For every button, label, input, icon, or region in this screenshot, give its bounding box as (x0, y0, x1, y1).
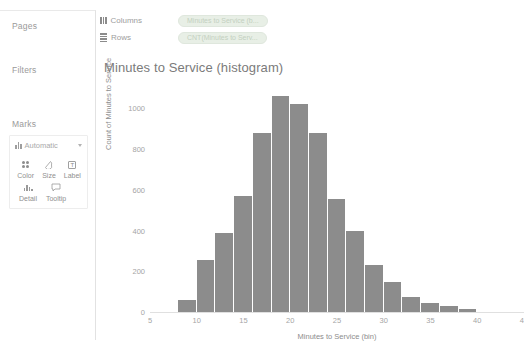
x-axis-line (150, 312, 524, 313)
x-tick-label: 5 (148, 316, 152, 325)
shelf-area: Columns Minutes to Service (b... Rows CN… (100, 12, 520, 46)
y-axis-ticks: 02004006008001000 (114, 88, 148, 312)
marks-label-button[interactable]: T Label (61, 156, 84, 179)
chart-canvas: Count of Minutes to Service 020040060080… (100, 88, 524, 350)
x-axis-ticks: 51015202530354045 (150, 314, 524, 328)
size-icon (44, 159, 53, 170)
sidebar: Pages Filters Marks Automatic Col (0, 10, 96, 340)
rows-icon (100, 33, 107, 42)
plot-area (150, 88, 524, 312)
histogram-bar[interactable] (197, 260, 216, 312)
histogram-bar[interactable] (309, 133, 328, 312)
columns-pill[interactable]: Minutes to Service (b... (178, 15, 268, 27)
columns-label: Columns (111, 16, 143, 25)
marks-label: Marks (0, 119, 95, 129)
x-tick-label: 35 (426, 316, 434, 325)
histogram-bar[interactable] (402, 297, 421, 312)
histogram-bar[interactable] (234, 196, 253, 312)
histogram-bar[interactable] (290, 104, 309, 312)
y-tick-label: 200 (132, 267, 145, 276)
y-tick-label: 800 (132, 145, 145, 154)
x-tick-label: 15 (239, 316, 247, 325)
rows-shelf[interactable]: Rows CNT(Minutes to Serv... (100, 29, 520, 46)
marks-size-button[interactable]: Size (37, 156, 60, 179)
pages-shelf[interactable]: Pages (0, 21, 95, 63)
chart-title: Minutes to Service (histogram) (104, 60, 283, 75)
histogram-bar[interactable] (365, 265, 384, 312)
marks-card: Automatic Color Size (9, 135, 88, 209)
detail-icon (24, 182, 33, 193)
marks-tooltip-button[interactable]: Tooltip (42, 179, 70, 202)
rows-label: Rows (111, 33, 131, 42)
histogram-bar[interactable] (346, 231, 365, 312)
columns-shelf[interactable]: Columns Minutes to Service (b... (100, 12, 520, 29)
tooltip-icon (51, 182, 61, 193)
y-tick-label: 0 (141, 308, 145, 317)
y-tick-label: 600 (132, 185, 145, 194)
histogram-bar[interactable] (328, 199, 347, 312)
marks-shelf: Marks Automatic Color (0, 119, 95, 229)
y-tick-label: 1000 (128, 104, 145, 113)
chevron-down-icon[interactable] (78, 144, 82, 147)
marks-label-label: Label (64, 172, 81, 179)
columns-shelf-name: Columns (100, 16, 160, 25)
x-tick-label: 10 (193, 316, 201, 325)
histogram-bar[interactable] (178, 300, 197, 312)
marks-size-label: Size (42, 172, 56, 179)
histogram-bar[interactable] (272, 96, 291, 312)
rows-shelf-name: Rows (100, 33, 160, 42)
y-tick-label: 400 (132, 226, 145, 235)
filters-shelf[interactable]: Filters (0, 65, 95, 117)
x-tick-label: 20 (286, 316, 294, 325)
label-icon: T (68, 159, 76, 170)
marks-color-button[interactable]: Color (14, 156, 37, 179)
histogram-bar[interactable] (253, 133, 272, 312)
y-axis-title: Count of Minutes to Service (104, 58, 113, 150)
x-axis-title: Minutes to Service (bin) (150, 332, 524, 341)
marks-button-row-1: Color Size T Label (13, 156, 84, 179)
marks-detail-button[interactable]: Detail (14, 179, 42, 202)
pages-label: Pages (0, 21, 95, 31)
histogram-bar[interactable] (384, 282, 403, 312)
marks-color-label: Color (17, 172, 34, 179)
marks-button-row-2: Detail Tooltip (13, 179, 84, 202)
rows-pill[interactable]: CNT(Minutes to Serv... (178, 32, 267, 44)
marks-detail-label: Detail (19, 195, 37, 202)
histogram-bar[interactable] (215, 233, 234, 312)
color-icon (22, 159, 30, 170)
bar-series (150, 88, 524, 312)
x-tick-label: 40 (473, 316, 481, 325)
columns-icon (100, 17, 107, 24)
x-tick-label: 45 (520, 316, 524, 325)
x-tick-label: 30 (380, 316, 388, 325)
bar-chart-icon (15, 142, 22, 149)
filters-label: Filters (0, 65, 95, 75)
marks-type-value: Automatic (25, 141, 74, 150)
marks-tooltip-label: Tooltip (46, 195, 66, 202)
x-tick-label: 25 (333, 316, 341, 325)
marks-type-dropdown[interactable]: Automatic (13, 140, 84, 156)
tableau-worksheet: Pages Filters Marks Automatic Col (0, 0, 524, 359)
histogram-bar[interactable] (421, 303, 440, 312)
